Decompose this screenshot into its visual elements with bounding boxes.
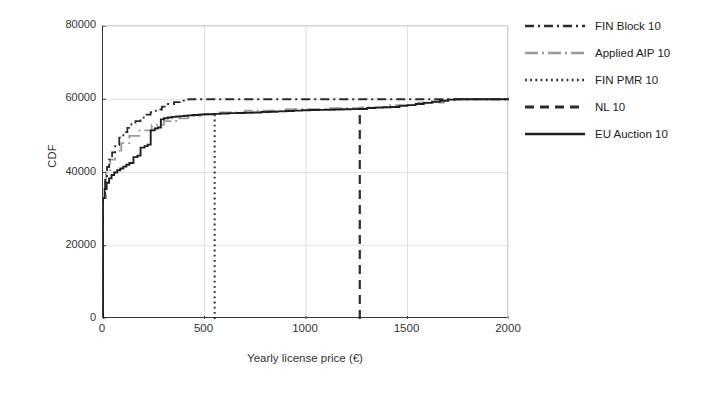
legend-line-icon [524,47,586,59]
x-tick-label: 1500 [377,322,437,334]
legend-item-label: NL 10 [595,101,625,113]
y-tick-label: 80000 [40,18,96,30]
chart-figure: CDF 020000400006000080000 05001000150020… [0,0,706,398]
legend-item[interactable]: NL 10 [524,93,700,120]
x-axis-label: Yearly license price (€) [102,352,508,364]
y-axis-tick-labels: 020000400006000080000 [38,25,96,318]
x-tick-label: 0 [72,322,132,334]
legend-item[interactable]: EU Auction 10 [524,120,700,147]
legend-item-label: FIN Block 10 [595,20,661,32]
x-tick-label: 1000 [275,322,335,334]
legend-item[interactable]: Applied AIP 10 [524,39,700,66]
plot-area [102,25,508,318]
plot-svg [103,26,509,319]
x-tick-label: 2000 [478,322,538,334]
y-tick-label: 20000 [40,238,96,250]
legend-item-label: Applied AIP 10 [595,47,670,59]
legend-item-label: FIN PMR 10 [595,74,658,86]
legend-line-icon [524,74,586,86]
chart-legend: FIN Block 10Applied AIP 10FIN PMR 10NL 1… [524,12,700,147]
legend-line-icon [524,20,586,32]
x-tick-label: 500 [174,322,234,334]
y-tick-label: 60000 [40,91,96,103]
legend-item-label: EU Auction 10 [595,128,668,140]
legend-item[interactable]: FIN Block 10 [524,12,700,39]
legend-line-icon [524,128,586,140]
legend-line-icon [524,101,586,113]
legend-item[interactable]: FIN PMR 10 [524,66,700,93]
x-axis-tick-labels: 0500100015002000 [102,322,508,342]
y-tick-label: 40000 [40,165,96,177]
